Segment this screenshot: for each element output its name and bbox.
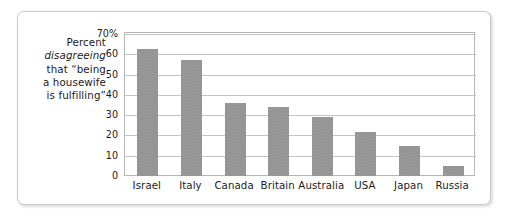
x-axis-tick-label: Israel xyxy=(133,180,161,191)
plot-area xyxy=(124,32,475,176)
bar xyxy=(181,60,202,176)
bar xyxy=(399,146,420,176)
chart-figure: Percent disagreeing that “being a housew… xyxy=(0,0,513,221)
y-axis-tick-label: 60 xyxy=(84,48,118,59)
x-axis-tick-label: USA xyxy=(354,180,375,191)
y-axis-tick-label: 10 xyxy=(84,149,118,160)
y-axis-tick-label: 30 xyxy=(84,109,118,120)
bar xyxy=(443,166,464,176)
bar-series xyxy=(126,34,475,176)
bar xyxy=(137,49,158,176)
x-axis-tick-labels: IsraelItalyCanadaBritainAustraliaUSAJapa… xyxy=(124,180,475,196)
bar xyxy=(355,132,376,176)
bar xyxy=(312,117,333,176)
x-axis-tick-label: Canada xyxy=(214,180,253,191)
x-axis-tick-label: Russia xyxy=(436,180,469,191)
y-axis-tick-label: 0 xyxy=(84,170,118,181)
x-axis-tick-label: Britain xyxy=(261,180,295,191)
y-axis-tick-labels: 010203040506070% xyxy=(82,32,118,176)
y-axis-tick-label: 70% xyxy=(84,28,118,39)
x-axis-tick-label: Australia xyxy=(298,180,344,191)
y-axis-tick-label: 20 xyxy=(84,129,118,140)
y-axis-tick-label: 50 xyxy=(84,68,118,79)
plot-area-wrapper xyxy=(124,32,475,176)
x-axis-tick-label: Japan xyxy=(394,180,423,191)
bar xyxy=(268,107,289,176)
y-axis-tick-label: 40 xyxy=(84,88,118,99)
bar xyxy=(225,103,246,176)
x-axis-tick-label: Italy xyxy=(179,180,202,191)
